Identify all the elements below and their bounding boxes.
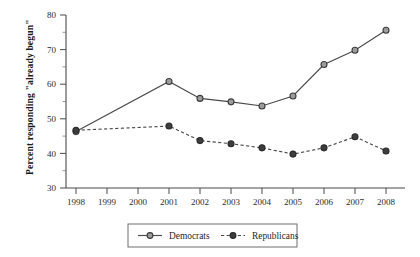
chart-background (0, 0, 420, 257)
data-point (259, 145, 265, 151)
legend-label-democrats: Democrats (169, 231, 210, 241)
data-point (290, 93, 296, 99)
x-tick-label-2004: 2004 (253, 197, 272, 207)
data-point (352, 47, 358, 53)
chart-legend: Democrats Republicans (128, 224, 299, 247)
data-point (73, 127, 79, 133)
y-tick-label-30: 30 (47, 183, 57, 193)
data-point (352, 134, 358, 140)
x-tick-label-2002: 2002 (191, 197, 209, 207)
data-point (166, 123, 172, 129)
legend-label-republicans: Republicans (252, 231, 299, 241)
data-point (321, 145, 327, 151)
y-tick-label-80: 80 (47, 10, 57, 20)
x-tick-label-1998: 1998 (67, 197, 86, 207)
data-point (228, 141, 234, 147)
data-point (383, 27, 389, 33)
y-axis-label: Percent responding "already begun" (24, 19, 35, 175)
y-tick-label-40: 40 (47, 149, 57, 159)
legend-marker-republicans (230, 233, 236, 239)
chart-canvas: Percent responding "already begun" 80 70… (0, 0, 420, 257)
x-tick-label-2003: 2003 (222, 197, 241, 207)
line-chart-figure: Percent responding "already begun" 80 70… (0, 0, 420, 257)
x-tick-label-2007: 2007 (346, 197, 365, 207)
x-tick-label-2000: 2000 (129, 197, 148, 207)
data-point (383, 148, 389, 154)
data-point (321, 61, 327, 67)
data-point (166, 78, 172, 84)
x-tick-label-1999: 1999 (98, 197, 117, 207)
y-tick-label-50: 50 (47, 114, 57, 124)
data-point (197, 95, 203, 101)
data-point (197, 138, 203, 144)
legend-marker-democrats (147, 233, 153, 239)
data-point (290, 151, 296, 157)
data-point (259, 103, 265, 109)
data-point (228, 99, 234, 105)
x-tick-label-2008: 2008 (377, 197, 396, 207)
x-tick-label-2006: 2006 (315, 197, 334, 207)
y-tick-label-60: 60 (47, 79, 57, 89)
x-tick-label-2001: 2001 (160, 197, 178, 207)
x-tick-label-2005: 2005 (284, 197, 303, 207)
y-tick-label-70: 70 (47, 45, 57, 55)
